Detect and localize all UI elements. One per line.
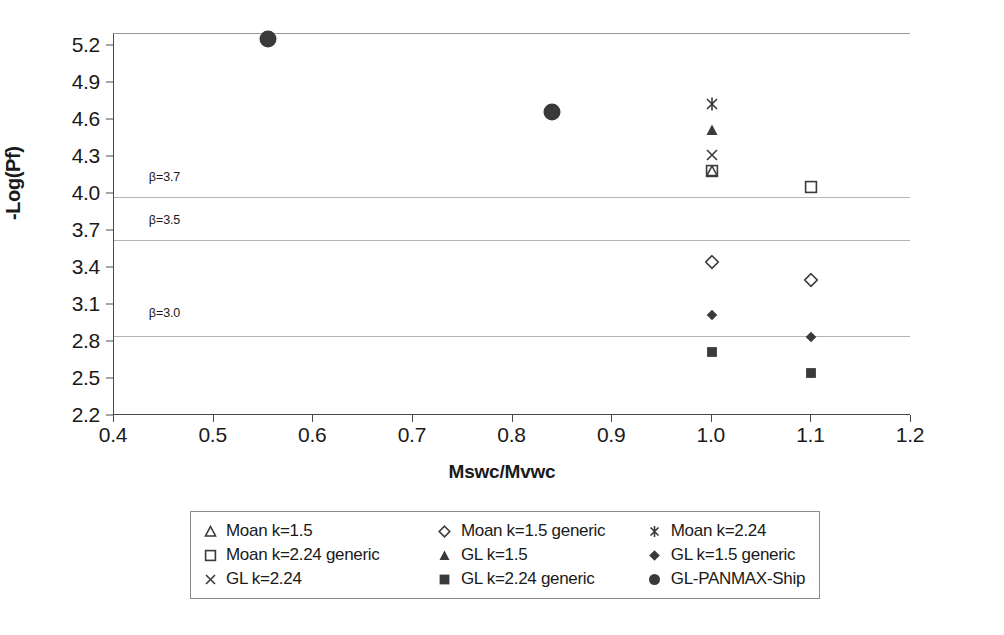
x-axis-tick-mark: [711, 415, 712, 422]
y-axis-tick-label: 4.9: [28, 70, 100, 94]
y-axis-tick-label: 4.3: [28, 144, 100, 168]
x-axis-tick-label: 0.7: [377, 423, 447, 447]
x-axis-tick-mark: [113, 415, 114, 422]
asterisk-icon: [646, 525, 664, 538]
x-axis-tick-mark: [810, 415, 811, 422]
legend-entry-label: GL-PANMAX-Ship: [671, 569, 805, 589]
y-axis-tick-mark: [106, 230, 113, 231]
y-axis-tick-mark: [106, 193, 113, 194]
data-point-marker: [705, 345, 718, 358]
data-point-marker: [705, 164, 719, 178]
legend-entry[interactable]: GL k=1.5: [436, 545, 646, 565]
data-point-marker: [805, 366, 818, 379]
legend-entry-label: GL k=2.24: [226, 569, 302, 589]
legend-entry-label: GL k=1.5 generic: [671, 545, 796, 565]
filled-triangle-icon: [436, 549, 454, 562]
data-point-marker: [704, 254, 719, 269]
x-axis-tick-label: 0.9: [576, 423, 646, 447]
legend-entry-label: GL k=2.24 generic: [461, 569, 595, 589]
legend-entry-label: Moan k=1.5: [226, 521, 312, 541]
x-axis-tick-mark: [412, 415, 413, 422]
y-axis-tick-mark: [106, 267, 113, 268]
open-square-icon: [201, 549, 219, 562]
x-axis-tick-mark: [312, 415, 313, 422]
y-axis-tick-label: 5.2: [28, 33, 100, 57]
beta-gridline: [114, 197, 910, 198]
legend-entry[interactable]: GL k=2.24 generic: [436, 569, 646, 589]
legend-row: Moan k=1.5Moan k=1.5 genericMoan k=2.24: [201, 519, 819, 543]
open-diamond-icon: [436, 525, 454, 538]
x-axis-tick-label: 0.5: [178, 423, 248, 447]
y-axis-tick-mark: [106, 156, 113, 157]
open-triangle-icon: [201, 525, 219, 538]
data-point-marker: [704, 97, 719, 112]
y-axis-tick-label: 2.8: [28, 329, 100, 353]
data-point-marker: [805, 331, 818, 344]
data-point-marker: [705, 148, 719, 162]
y-axis-tick-mark: [106, 45, 113, 46]
data-point-marker: [259, 29, 278, 48]
x-axis-tick-mark: [611, 415, 612, 422]
legend-entry[interactable]: Moan k=2.24: [646, 521, 819, 541]
filled-square-icon: [436, 573, 454, 586]
data-point-marker: [804, 180, 818, 194]
beta-annotation-label: β=3.5: [149, 213, 180, 227]
x-axis-title: Mswc/Mvwc: [0, 461, 1004, 483]
x-axis-tick-label: 1.1: [775, 423, 845, 447]
y-axis-tick-mark: [106, 82, 113, 83]
y-axis-tick-mark: [106, 415, 113, 416]
legend-entry[interactable]: Moan k=1.5 generic: [436, 521, 646, 541]
data-point-marker: [705, 123, 719, 137]
data-point-marker: [705, 308, 718, 321]
legend-row: GL k=2.24GL k=2.24 genericGL-PANMAX-Ship: [201, 567, 819, 591]
plot-area: β=3.7β=3.5β=3.0: [113, 33, 910, 415]
beta-annotation-label: β=3.0: [149, 306, 180, 320]
y-axis-tick-label: 3.1: [28, 292, 100, 316]
legend-entry[interactable]: Moan k=1.5: [201, 521, 436, 541]
legend-entry-label: Moan k=1.5 generic: [461, 521, 605, 541]
y-axis-tick-mark: [106, 378, 113, 379]
filled-diamond-icon: [646, 549, 664, 562]
legend-entry[interactable]: GL-PANMAX-Ship: [646, 569, 819, 589]
y-axis-tick-mark: [106, 341, 113, 342]
y-axis-tick-label: 2.5: [28, 366, 100, 390]
x-axis-tick-label: 1.0: [676, 423, 746, 447]
x-axis-tick-label: 1.2: [875, 423, 945, 447]
legend-entry-label: Moan k=2.24: [671, 521, 766, 541]
y-axis-tick-mark: [106, 119, 113, 120]
legend-entry[interactable]: GL k=1.5 generic: [646, 545, 819, 565]
legend: Moan k=1.5Moan k=1.5 genericMoan k=2.24M…: [190, 511, 820, 599]
legend-entry[interactable]: Moan k=2.24 generic: [201, 545, 436, 565]
legend-row: Moan k=2.24 genericGL k=1.5GL k=1.5 gene…: [201, 543, 819, 567]
x-axis-tick-label: 0.8: [477, 423, 547, 447]
legend-entry-label: Moan k=2.24 generic: [226, 545, 380, 565]
x-axis-tick-mark: [512, 415, 513, 422]
y-axis-tick-label: 4.6: [28, 107, 100, 131]
beta-gridline: [114, 240, 910, 241]
beta-gridline: [114, 336, 910, 337]
x-axis-tick-label: 0.6: [277, 423, 347, 447]
legend-row-group: Moan k=1.5Moan k=1.5 genericMoan k=2.24M…: [201, 519, 819, 591]
cross-x-icon: [201, 573, 219, 586]
data-point-marker: [543, 102, 562, 121]
y-axis-tick-label: 3.7: [28, 218, 100, 242]
y-axis-tick-label: 3.4: [28, 255, 100, 279]
scatter-chart-figure: -Log(Pf) 2.22.52.83.13.43.74.04.34.64.95…: [0, 0, 1004, 635]
legend-entry[interactable]: GL k=2.24: [201, 569, 436, 589]
x-axis-tick-label: 0.4: [78, 423, 148, 447]
filled-circle-icon: [646, 573, 664, 586]
x-axis-tick-mark: [213, 415, 214, 422]
y-axis-tick-mark: [106, 304, 113, 305]
y-axis-title: -Log(Pf): [2, 147, 25, 220]
beta-annotation-label: β=3.7: [149, 170, 180, 184]
legend-entry-label: GL k=1.5: [461, 545, 527, 565]
y-axis-tick-label: 4.0: [28, 181, 100, 205]
data-point-marker: [804, 273, 819, 288]
x-axis-tick-mark: [910, 415, 911, 422]
